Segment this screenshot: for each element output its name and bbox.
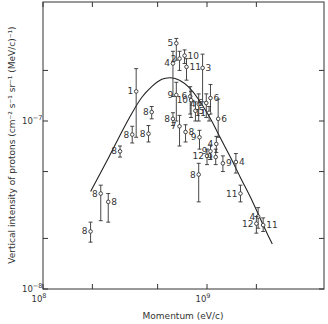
plot-frame xyxy=(43,2,324,289)
point-marker xyxy=(221,162,225,166)
point-marker xyxy=(89,230,93,234)
point-marker xyxy=(106,200,110,204)
data-point: 1 xyxy=(127,69,138,138)
point-marker xyxy=(99,192,103,196)
proton-spectrum-chart: 10810910−710−8 8888818845897210116108934… xyxy=(0,0,328,324)
reference-label: 10 xyxy=(177,95,189,105)
x-axis-label: Momentum (eV/c) xyxy=(143,311,224,321)
reference-label: 7 xyxy=(171,121,177,131)
point-marker xyxy=(234,160,238,164)
reference-label: 6 xyxy=(221,114,227,124)
point-marker xyxy=(118,150,122,154)
point-marker xyxy=(147,132,151,136)
x-tick-label: 108 xyxy=(32,292,47,304)
point-marker xyxy=(255,222,259,226)
reference-label: 8 xyxy=(123,130,129,140)
data-point: 8 xyxy=(190,163,201,202)
y-tick-label: 10−8 xyxy=(22,282,42,294)
data-point: 8 xyxy=(123,126,134,143)
data-point: 9 xyxy=(221,156,232,172)
point-marker xyxy=(175,42,179,46)
reference-label: 8 xyxy=(111,197,117,207)
reference-label: 8 xyxy=(190,170,196,180)
reference-label: 8 xyxy=(164,114,170,124)
data-point: 12 xyxy=(242,217,258,234)
data-point: 8 xyxy=(82,222,93,242)
point-marker xyxy=(239,192,243,196)
data-point: 2 xyxy=(171,51,182,70)
point-marker xyxy=(178,124,182,128)
point-marker xyxy=(134,90,138,94)
data-point: 9 xyxy=(207,149,218,164)
data-point: 8 xyxy=(143,106,154,118)
point-marker xyxy=(207,111,211,115)
point-marker xyxy=(209,96,213,100)
reference-label: 9 xyxy=(226,158,232,168)
x-tick-label: 109 xyxy=(196,292,211,304)
point-marker xyxy=(184,130,188,134)
point-marker xyxy=(201,66,205,70)
data-point: 8 xyxy=(106,194,117,223)
point-marker xyxy=(171,117,175,121)
point-marker xyxy=(130,133,134,137)
reference-label: 8 xyxy=(82,226,88,236)
reference-label: 9 xyxy=(207,152,213,162)
data-point: 6 xyxy=(216,99,227,137)
reference-label: 9 xyxy=(168,90,174,100)
plot-border xyxy=(43,2,324,289)
data-point: 4 xyxy=(234,154,245,173)
axis-ticks xyxy=(43,2,324,289)
reference-label: 8 xyxy=(92,189,98,199)
reference-label: 11 xyxy=(195,108,206,118)
reference-label: 10 xyxy=(188,51,200,61)
reference-label: 4 xyxy=(239,157,245,167)
point-marker xyxy=(178,57,182,61)
point-marker xyxy=(197,173,201,177)
reference-label: 8 xyxy=(143,107,149,117)
reference-label: 4 xyxy=(164,58,170,68)
data-point: 8 xyxy=(140,126,151,142)
reference-label: 8 xyxy=(140,129,146,139)
data-point: 9 xyxy=(191,130,202,149)
data-point: 11 xyxy=(185,59,201,81)
data-point: 11 xyxy=(195,106,211,121)
point-marker xyxy=(185,65,189,69)
data-points: 8888818845897210116108934566116812949941… xyxy=(82,38,278,242)
data-point: 8 xyxy=(111,146,122,157)
point-marker xyxy=(215,142,219,146)
point-marker xyxy=(214,155,218,159)
reference-label: 4 xyxy=(208,139,214,149)
point-marker xyxy=(150,110,154,114)
reference-label: 6 xyxy=(198,98,204,108)
reference-label: 5 xyxy=(168,38,174,48)
reference-label: 9 xyxy=(191,132,197,142)
point-marker xyxy=(216,117,220,121)
data-point: 11 xyxy=(261,218,277,232)
reference-label: 11 xyxy=(266,220,277,230)
point-marker xyxy=(183,54,187,58)
reference-label: 11 xyxy=(190,62,201,72)
data-point: 8 xyxy=(92,185,103,221)
reference-label: 12 xyxy=(242,219,253,229)
reference-label: 1 xyxy=(127,86,133,96)
point-marker xyxy=(204,101,208,105)
reference-label: 11 xyxy=(226,189,237,199)
reference-label: 8 xyxy=(111,146,117,156)
y-axis-label: Vertical intensity of protons (cm⁻² s⁻¹ … xyxy=(7,26,17,263)
y-tick-label: 10−7 xyxy=(22,114,42,126)
point-marker xyxy=(198,135,202,139)
reference-label: 2 xyxy=(171,54,177,64)
point-marker xyxy=(261,223,265,227)
reference-label: 3 xyxy=(206,63,212,73)
data-point: 11 xyxy=(226,185,242,202)
